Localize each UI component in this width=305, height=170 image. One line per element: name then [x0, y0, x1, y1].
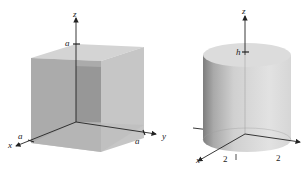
cylinder-z-label: z — [241, 6, 246, 16]
cube-z-tick-label: a — [65, 38, 70, 48]
cube-y-tick-label: a — [135, 136, 140, 146]
cube-x-tick-label: a — [18, 131, 23, 141]
cylinder-top-face — [203, 43, 291, 67]
cube-inner-shade — [76, 66, 101, 122]
cylinder-x-tick-label: 2 — [223, 154, 228, 164]
cylinder-x-label: x — [195, 155, 200, 165]
figure-cube-and-cylinder: z a a x a y z h x — [0, 0, 305, 170]
cube-z-label: z — [72, 9, 77, 19]
cube-y-label: y — [161, 131, 166, 141]
cylinder-y-tick-label: 2 — [276, 153, 281, 163]
cylinder-z-tick-label: h — [236, 47, 241, 57]
cylinder-diagram: z h x 2 2 — [193, 6, 300, 165]
cube-diagram: z a a x a y — [7, 9, 166, 152]
cylinder-body — [203, 55, 291, 152]
cube-x-label: x — [7, 140, 12, 150]
